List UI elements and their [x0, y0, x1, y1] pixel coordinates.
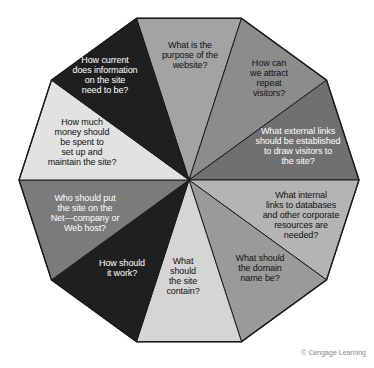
- website-planning-wheel-figure: What is the purpose of the website? How …: [0, 0, 374, 368]
- copyright-credit: © Cengage Learning: [301, 349, 366, 356]
- decagon-wheel-svg: [0, 0, 374, 368]
